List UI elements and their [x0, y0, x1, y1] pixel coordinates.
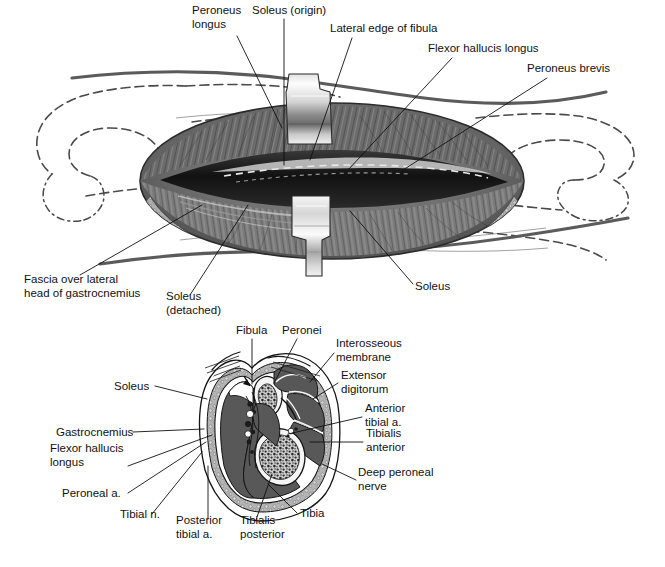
label-line: Fibula: [236, 324, 268, 336]
label-line: Extensor: [341, 369, 387, 381]
leader-peroneal-a: [128, 442, 206, 493]
label-line: Anterior: [365, 402, 405, 414]
leader-gastrocnemius: [133, 429, 204, 432]
label-fibula: Fibula: [236, 324, 268, 336]
label-line: posterior: [240, 528, 285, 540]
lower-cross-section-panel: [128, 339, 363, 521]
label-line: nerve: [358, 480, 387, 492]
label-extensor-digitorum: Extensordigitorum: [341, 369, 388, 395]
label-peroneus-brevis: Peroneus brevis: [527, 62, 610, 74]
label-soleus-origin: Soleus (origin): [252, 4, 326, 16]
label-line: Soleus: [114, 380, 149, 392]
label-flexor-hallucis-longus: Flexor hallucis longus: [428, 42, 539, 54]
label-soleus-cs: Soleus: [114, 380, 149, 392]
label-gastrocnemius: Gastrocnemius: [56, 426, 134, 438]
label-flexor-hallucis-longus-cs: Flexor hallucislongus: [50, 442, 124, 468]
label-peroneal-a: Peroneal a.: [62, 487, 121, 499]
label-line: longus: [192, 18, 226, 30]
label-peroneus-longus: Peroneuslongus: [192, 4, 241, 30]
label-line: Peronei: [282, 324, 322, 336]
label-line: head of gastrocnemius: [24, 287, 141, 299]
surgical-wound: [140, 103, 524, 266]
label-fascia-over-lateral-head: Fascia over lateralhead of gastrocnemius: [24, 273, 141, 299]
label-line: Fascia over lateral: [24, 273, 118, 285]
label-line: Gastrocnemius: [56, 426, 134, 438]
label-line: Interosseous: [336, 337, 402, 349]
label-line: Lateral edge of fibula: [330, 22, 438, 34]
label-soleus-lower: Soleus: [415, 280, 450, 292]
label-tibial-n: Tibial n.: [120, 508, 160, 520]
leader-soleus-cs: [155, 386, 207, 399]
retractor-bottom: [292, 196, 330, 276]
label-line: Tibia: [300, 507, 325, 519]
label-line: Peroneal a.: [62, 487, 121, 499]
label-line: tibial a.: [176, 528, 212, 540]
label-line: Soleus (origin): [252, 4, 326, 16]
label-peronei: Peronei: [282, 324, 322, 336]
leader-fascia-over-lateral-head: [80, 205, 202, 275]
label-line: Peroneus: [192, 4, 241, 16]
anatomy-figure-page: PeroneuslongusSoleus (origin)Lateral edg…: [0, 0, 665, 567]
label-interosseous-membrane: Interosseousmembrane: [336, 337, 402, 363]
label-tibia: Tibia: [300, 507, 325, 519]
label-line: digitorum: [341, 383, 388, 395]
label-line: tibial a.: [365, 416, 401, 428]
leader-flexor-hallucis-longus-cs: [128, 435, 212, 466]
label-soleus-detached: Soleus(detached): [166, 290, 221, 316]
label-line: Peroneus brevis: [527, 62, 610, 74]
label-line: Flexor hallucis: [50, 442, 124, 454]
anatomy-illustration: PeroneuslongusSoleus (origin)Lateral edg…: [0, 0, 665, 567]
label-line: Soleus: [415, 280, 450, 292]
label-line: anterior: [366, 441, 405, 453]
label-line: (detached): [166, 304, 221, 316]
label-anterior-tibial-a: Anteriortibial a.: [365, 402, 405, 428]
label-line: longus: [50, 456, 84, 468]
label-deep-peroneal-nerve: Deep peronealnerve: [358, 466, 433, 492]
label-line: Tibial n.: [120, 508, 160, 520]
label-line: Flexor hallucis longus: [428, 42, 539, 54]
label-lateral-edge-fibula: Lateral edge of fibula: [330, 22, 438, 34]
label-line: Tibialis: [366, 427, 402, 439]
label-line: Tibialis: [240, 514, 276, 526]
label-line: membrane: [336, 351, 391, 363]
label-line: Deep peroneal: [358, 466, 433, 478]
upper-surgical-exposure-panel: [37, 19, 634, 295]
label-line: Soleus: [166, 290, 201, 302]
label-line: Posterior: [176, 514, 222, 526]
label-tibialis-anterior: Tibialisanterior: [366, 427, 405, 453]
label-posterior-tibial-a: Posteriortibial a.: [176, 514, 222, 540]
